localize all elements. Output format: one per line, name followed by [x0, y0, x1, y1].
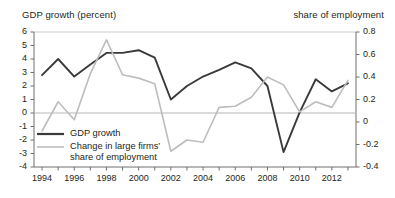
x-tick-label: 2002 — [156, 173, 186, 183]
y-tick-label-right: 0.8 — [363, 26, 389, 36]
x-axis-ticks — [42, 167, 348, 171]
y-tick-label-left: 1 — [11, 94, 27, 104]
y-tick-label-left: -4 — [11, 161, 27, 171]
x-tick-label: 2004 — [188, 173, 218, 183]
y-tick-label-left: 4 — [11, 53, 27, 63]
legend-swatches — [37, 134, 64, 147]
x-tick-label: 2008 — [252, 173, 282, 183]
y-tick-label-right: 0.2 — [363, 94, 389, 104]
x-tick-label: 1994 — [27, 173, 57, 183]
y-tick-label-left: 5 — [11, 40, 27, 50]
chart-plot-area — [0, 0, 395, 198]
legend-label-1: Change in large firms’ share of employme… — [70, 141, 160, 162]
y-tick-label-right: 0.6 — [363, 49, 389, 59]
x-tick-label: 2006 — [220, 173, 250, 183]
y-tick-label-left: -2 — [11, 134, 27, 144]
x-tick-label: 1996 — [59, 173, 89, 183]
y-tick-label-right: -0.2 — [363, 139, 389, 149]
y-axis-ticks-right — [356, 32, 360, 167]
x-tick-label: 1998 — [91, 173, 121, 183]
y-tick-label-left: -1 — [11, 121, 27, 131]
y-tick-label-left: 2 — [11, 80, 27, 90]
y-tick-label-right: 0.4 — [363, 71, 389, 81]
x-tick-label: 2010 — [285, 173, 315, 183]
y-tick-label-right: -0.4 — [363, 161, 389, 171]
y-tick-label-left: 3 — [11, 67, 27, 77]
y-axis-ticks-left — [31, 32, 35, 167]
chart-figure: GDP growth (percent) share of employment… — [0, 0, 395, 198]
legend-label-0: GDP growth — [70, 128, 120, 139]
y-tick-label-left: 0 — [11, 107, 27, 117]
y-tick-label-left: -3 — [11, 148, 27, 158]
x-tick-label: 2000 — [124, 173, 154, 183]
x-tick-label: 2012 — [317, 173, 347, 183]
y-tick-label-left: 6 — [11, 26, 27, 36]
y-tick-label-right: 0 — [363, 116, 389, 126]
